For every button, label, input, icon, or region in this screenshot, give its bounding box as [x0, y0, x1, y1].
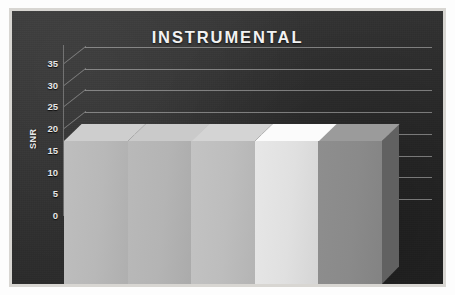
- y-axis-tick-label: 25: [47, 101, 58, 112]
- bar-front-face: [128, 141, 192, 284]
- bar-front-face: [255, 141, 319, 284]
- y-axis-tick-label: 15: [47, 144, 58, 155]
- y-axis-tick-label: 10: [47, 166, 58, 177]
- y-axis-tick-label: 0: [53, 210, 58, 221]
- bar-front-face: [64, 141, 128, 284]
- bar-front-face: [191, 141, 255, 284]
- y-axis-tick-label: 20: [47, 123, 58, 134]
- screenshot-root: INSTRUMENTAL 35302520151050 SNR ATTACKS …: [0, 0, 455, 295]
- y-axis-tick-label: 5: [53, 188, 58, 199]
- chart-canvas: INSTRUMENTAL 35302520151050 SNR ATTACKS …: [12, 11, 443, 284]
- bar-column: [255, 141, 319, 284]
- y-axis-tick-label: 30: [47, 79, 58, 90]
- chart-frame: INSTRUMENTAL 35302520151050 SNR ATTACKS …: [9, 8, 446, 287]
- bar-column: [64, 141, 128, 284]
- y-axis-title: SNR: [28, 128, 38, 149]
- y-axis-tick-label: 35: [47, 58, 58, 69]
- bars-group: [64, 132, 382, 284]
- chart-title: INSTRUMENTAL: [12, 28, 443, 47]
- bar-side-face: [382, 123, 399, 284]
- gridline-horizontal-segment: [85, 47, 432, 48]
- bar-column: [128, 141, 192, 284]
- bar-front-face: [318, 141, 382, 284]
- bar-column: [318, 141, 382, 284]
- bar-column: [191, 141, 255, 284]
